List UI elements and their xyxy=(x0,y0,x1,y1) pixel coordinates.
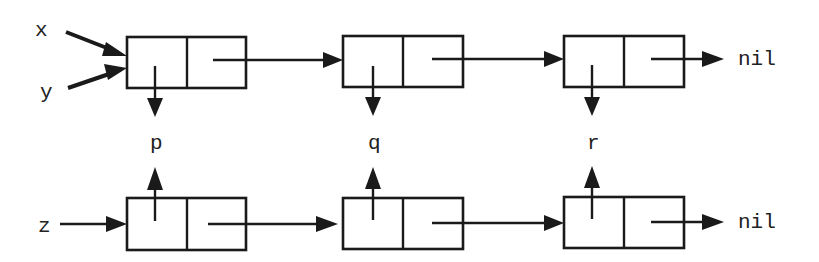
top-cell-1 xyxy=(127,37,343,117)
up-arrowhead-icon xyxy=(147,167,163,190)
up-arrowhead-icon xyxy=(584,166,600,188)
right-arrowhead-icon xyxy=(316,216,338,232)
down-arrowhead-icon xyxy=(147,98,163,117)
x-arrowhead-icon xyxy=(102,42,127,56)
right-arrowhead-icon xyxy=(323,52,343,68)
top-cell-2 xyxy=(343,36,564,116)
right-arrowhead-icon xyxy=(544,51,564,67)
value-q-label: q xyxy=(368,132,381,155)
variable-z-label: z xyxy=(38,215,51,238)
variable-x-label: x xyxy=(35,19,48,42)
bottom-list: z nil xyxy=(38,166,776,250)
down-arrowhead-icon xyxy=(584,97,600,116)
nil-label-bottom: nil xyxy=(738,211,776,234)
z-arrowhead-icon xyxy=(106,216,127,232)
right-arrowhead-icon xyxy=(544,215,564,231)
top-cell-3 xyxy=(564,36,724,116)
linked-list-diagram: x y xyxy=(0,0,819,262)
down-arrowhead-icon xyxy=(365,97,381,116)
y-arrowhead-icon xyxy=(104,64,127,80)
bottom-cell-3 xyxy=(564,166,724,248)
top-list: x y xyxy=(35,19,776,117)
value-r-label: r xyxy=(587,132,600,155)
bottom-cell-2 xyxy=(343,167,564,249)
right-arrowhead-icon xyxy=(702,51,724,67)
up-arrowhead-icon xyxy=(365,167,381,189)
bottom-cell-1 xyxy=(127,167,338,250)
right-arrowhead-icon xyxy=(702,214,724,230)
nil-label-top: nil xyxy=(738,48,776,71)
y-pointer-arrow xyxy=(68,73,112,88)
value-p-label: p xyxy=(150,132,163,155)
variable-y-label: y xyxy=(40,81,53,104)
